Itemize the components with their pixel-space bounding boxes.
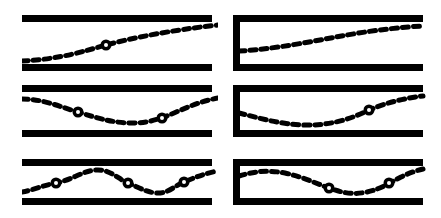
node-marker-center — [182, 180, 186, 184]
node-marker-center — [126, 181, 130, 185]
open-tube-mode-3-panel — [22, 159, 218, 207]
node-marker-center — [327, 186, 331, 190]
wave-curve — [239, 26, 423, 51]
wave-mode-figure — [0, 0, 441, 218]
node-marker-center — [387, 181, 391, 185]
node-marker-center — [367, 108, 371, 112]
open-tube-mode-1-panel — [22, 15, 218, 71]
open-tube-mode-2-panel — [22, 85, 218, 139]
wave-curve — [22, 25, 218, 61]
closed-tube-mode-2-panel — [233, 85, 429, 139]
node-marker-center — [54, 181, 58, 185]
node-marker-center — [104, 43, 108, 47]
closed-tube-mode-3-panel — [233, 159, 429, 207]
node-marker-center — [76, 110, 80, 114]
node-marker-center — [160, 116, 164, 120]
wave-curve — [239, 96, 423, 125]
closed-tube-mode-1-panel — [233, 15, 429, 71]
wave-curve — [22, 98, 218, 123]
